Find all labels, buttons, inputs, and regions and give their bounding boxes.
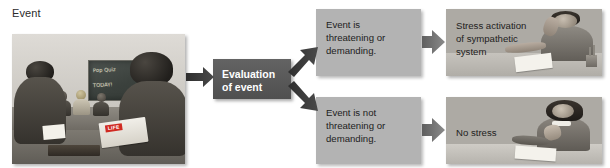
event-threatening-box: Event is threatening or demanding. [316, 9, 421, 76]
magazine-logo: LIFE [105, 123, 124, 132]
evaluation-line-2: of event [222, 81, 291, 94]
no-stress-line-1: No stress [456, 126, 561, 139]
event-not-threatening-box: Event is not threatening or demanding. [316, 97, 421, 164]
threatening-line-2: threatening or [326, 31, 418, 44]
stress-activation-photo: Stress activation of sympathetic system [446, 9, 602, 76]
arrow-threatening-to-stress [422, 30, 445, 54]
pencil-1 [593, 45, 595, 56]
arrow-evaluation-to-threatening [288, 47, 318, 77]
stress-line-2: of sympathetic [456, 32, 561, 45]
not-threatening-line-2: threatening or [326, 119, 418, 132]
threatening-line-3: demanding. [326, 44, 418, 57]
classroom-photo: Pop Quiz TODAY! LIFE [12, 34, 185, 164]
arrow-event-to-evaluation [186, 67, 214, 87]
stress-line-1: Stress activation [456, 19, 561, 32]
no-stress-outcome-label: No stress [456, 126, 561, 139]
page-title: Event [12, 7, 41, 19]
no-stress-photo: No stress [446, 97, 602, 164]
diagram-canvas: Event Pop Quiz TODAY! LIFE [0, 0, 610, 168]
relaxed-student-head [552, 104, 574, 118]
background-student-body-3 [93, 102, 109, 116]
background-student-body-2 [73, 99, 90, 115]
pencil-2 [589, 47, 591, 56]
left-student-paper [43, 124, 67, 140]
evaluation-line-1: Evaluation [222, 68, 291, 81]
evaluation-of-event-box: Evaluation of event [213, 59, 291, 99]
stress-line-3: system [456, 45, 561, 58]
stress-outcome-label: Stress activation of sympathetic system [456, 19, 561, 59]
no-stress-worksheet [514, 145, 555, 161]
pencil-cup [586, 55, 597, 67]
arrow-not-threatening-to-no-stress [422, 118, 445, 142]
not-threatening-line-3: demanding. [326, 132, 418, 145]
threatening-line-1: Event is [326, 18, 418, 31]
stacked-books [48, 145, 100, 157]
arrow-evaluation-to-not-threatening [288, 81, 318, 111]
not-threatening-line-1: Event is not [326, 106, 418, 119]
